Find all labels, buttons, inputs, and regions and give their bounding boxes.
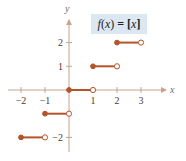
y-tick-label: −2 <box>52 132 63 143</box>
closed-endpoint <box>67 88 72 93</box>
x-tick-label: −1 <box>40 95 51 106</box>
bracket-close: ] <box>136 17 140 31</box>
equals-sign: = <box>114 17 127 31</box>
x-tick-label: 1 <box>91 95 96 106</box>
x-tick-label: 3 <box>139 95 144 106</box>
closed-endpoint <box>115 40 120 45</box>
y-tick-label: 1 <box>58 61 63 72</box>
open-endpoint <box>42 135 47 140</box>
open-endpoint <box>138 40 143 45</box>
function-label: f(x) = [x] <box>91 14 147 34</box>
open-endpoint <box>66 111 71 116</box>
x-tick-label: 2 <box>115 95 120 106</box>
open-endpoint <box>90 87 95 92</box>
y-axis-label: y <box>64 3 70 14</box>
closed-endpoint <box>43 111 48 116</box>
closed-endpoint <box>91 64 96 69</box>
x-axis-label: x <box>169 84 175 95</box>
open-endpoint <box>114 64 119 69</box>
x-tick-label: −2 <box>16 95 27 106</box>
function-label-box: f(x) = [x] <box>91 14 147 34</box>
y-tick-label: 2 <box>58 37 63 48</box>
closed-endpoint <box>19 135 24 140</box>
